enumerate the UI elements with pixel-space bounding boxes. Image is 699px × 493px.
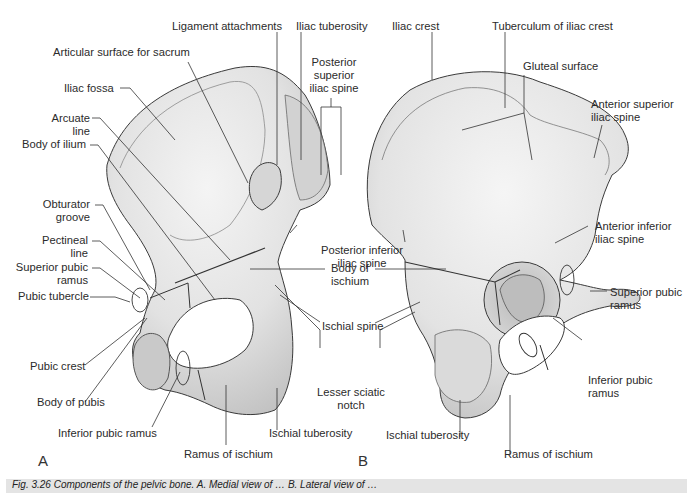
label-pubic-tubercle: Pubic tubercle xyxy=(18,290,89,303)
panel-letter-a: A xyxy=(38,452,48,469)
label-body-of-pubis: Body of pubis xyxy=(37,396,105,409)
label-posterior-superior-iliac-spine: Posterior superior iliac spine xyxy=(306,56,362,96)
label-anterior-superior-iliac-spine: Anterior superior iliac spine xyxy=(591,98,674,124)
label-pectineal-line: Pectineal line xyxy=(20,234,88,260)
label-tuberculum-of-iliac-crest: Tuberculum of iliac crest xyxy=(492,20,613,33)
label-ramus-of-ischium-a: Ramus of ischium xyxy=(184,448,273,461)
label-ischial-tuberosity-a: Ischial tuberosity xyxy=(269,427,352,440)
label-arcuate-line: Arcuate line xyxy=(30,112,90,138)
label-articular-surface-for-sacrum: Articular surface for sacrum xyxy=(53,46,190,59)
figure-caption-bar: Fig. 3.26 Components of the pelvic bone.… xyxy=(6,479,687,493)
label-iliac-fossa: Iliac fossa xyxy=(64,82,114,95)
label-anterior-inferior-iliac-spine: Anterior inferior iliac spine xyxy=(595,220,671,246)
label-gluteal-surface: Gluteal surface xyxy=(523,60,598,73)
medial-view-bone xyxy=(107,66,330,414)
label-inferior-pubic-ramus-b: Inferior pubic ramus xyxy=(588,374,653,400)
label-iliac-crest: Iliac crest xyxy=(392,20,439,33)
label-pubic-crest: Pubic crest xyxy=(30,360,85,373)
label-body-of-ilium: Body of ilium xyxy=(22,138,86,151)
label-superior-pubic-ramus-a: Superior pubic ramus xyxy=(8,261,88,287)
label-obturator-groove: Obturator groove xyxy=(20,198,90,224)
label-lesser-sciatic-notch: Lesser sciatic notch xyxy=(308,386,394,412)
label-inferior-pubic-ramus-a: Inferior pubic ramus xyxy=(58,427,157,440)
label-ramus-of-ischium-b: Ramus of ischium xyxy=(504,448,593,461)
panel-letter-b: B xyxy=(358,452,368,469)
label-ischial-spine: Ischial spine xyxy=(322,320,384,333)
figure-caption: Fig. 3.26 Components of the pelvic bone.… xyxy=(12,479,377,491)
label-ligament-attachments: Ligament attachments xyxy=(172,20,282,33)
label-ischial-tuberosity-b: Ischial tuberosity xyxy=(386,429,469,442)
label-iliac-tuberosity: Iliac tuberosity xyxy=(296,20,368,33)
label-superior-pubic-ramus-b: Superior pubic ramus xyxy=(610,286,682,312)
label-body-of-ischium: Body of ischium xyxy=(325,262,375,288)
